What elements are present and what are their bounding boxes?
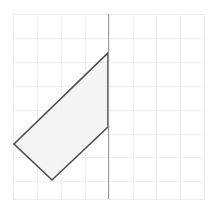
geometry-figure [0,0,216,214]
figure-canvas [0,0,216,214]
